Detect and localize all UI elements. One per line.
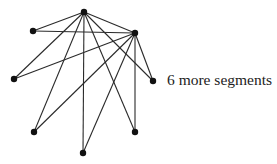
node-middle-right — [150, 78, 156, 84]
edge-upper-right-middle-left — [14, 33, 135, 79]
node-bottom — [80, 150, 86, 156]
edge-upper-right-bottom — [83, 33, 135, 153]
edge-top-upper-left — [33, 12, 84, 31]
node-upper-left — [30, 28, 36, 34]
edge-upper-right-lower-left — [34, 33, 135, 132]
edge-top-lower-left — [34, 12, 84, 132]
edge-upper-right-middle-right — [135, 33, 153, 81]
node-top — [81, 9, 87, 15]
node-lower-left — [31, 129, 37, 135]
edge-top-middle-left — [14, 12, 84, 79]
node-lower-right — [132, 129, 138, 135]
caption-more-segments: 6 more segments — [167, 71, 272, 89]
node-upper-right — [132, 30, 138, 36]
node-middle-left — [11, 76, 17, 82]
